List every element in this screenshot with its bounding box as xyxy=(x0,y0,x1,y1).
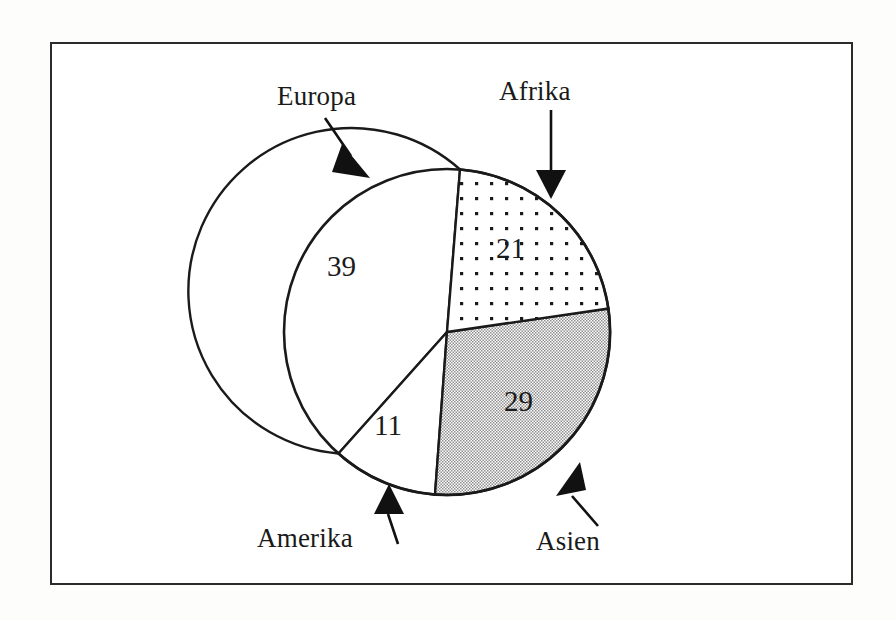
amerika-arrow xyxy=(374,484,404,544)
scanned-page: Europa Afrika Amerika Asien 39 21 29 11 xyxy=(0,0,896,620)
pie-value-europa: 39 xyxy=(327,252,356,281)
pie-label-afrika: Afrika xyxy=(499,78,571,105)
figure-frame xyxy=(50,42,853,585)
pie-label-europa: Europa xyxy=(277,83,356,110)
pie-chart-graphic xyxy=(52,44,855,587)
pie-slice-afrika[interactable] xyxy=(447,170,609,333)
afrika-arrow xyxy=(536,110,566,199)
pie-value-asien: 29 xyxy=(504,387,533,416)
pie-label-asien: Asien xyxy=(536,528,600,555)
pie-value-afrika: 21 xyxy=(496,234,525,263)
pie-label-amerika: Amerika xyxy=(257,525,353,552)
pie-value-amerika: 11 xyxy=(374,411,402,440)
asien-arrow xyxy=(556,462,598,526)
